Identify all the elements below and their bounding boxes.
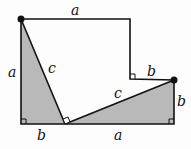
label-step-b: b <box>147 63 156 79</box>
label-bottom-b: b <box>37 127 46 143</box>
label-hyp-right-c: c <box>114 85 122 101</box>
pythagorean-diagram: a a c b c b b a <box>0 0 191 149</box>
label-bottom-a: a <box>114 127 122 143</box>
diagram-canvas: a a c b c b b a <box>0 0 191 149</box>
label-left-a: a <box>8 64 16 80</box>
vertex-dot-top-left <box>18 16 25 23</box>
label-hyp-left-c: c <box>48 60 56 76</box>
vertex-dot-right <box>171 77 178 84</box>
label-right-b: b <box>177 93 186 109</box>
label-top-a: a <box>71 2 79 18</box>
right-angle-marker-foot <box>63 117 70 124</box>
